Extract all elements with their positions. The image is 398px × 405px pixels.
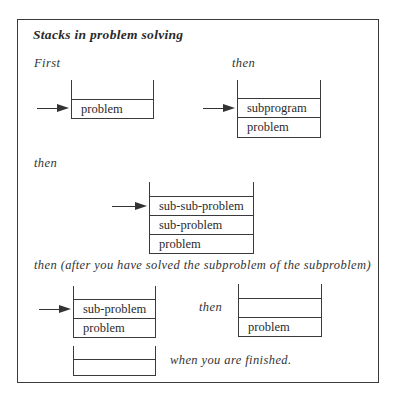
stack-3: sub-sub-problem sub-problem problem (149, 182, 254, 254)
stack-2: subprogram problem (237, 80, 321, 138)
stack-cell (239, 298, 321, 317)
stack-cell: problem (238, 117, 320, 138)
stack-4: sub-problem problem (73, 286, 156, 338)
stack-cell (74, 359, 155, 376)
stack-cell: problem (72, 99, 153, 119)
label-then-2: then (34, 156, 57, 171)
stack-cell: problem (239, 317, 321, 337)
stack-pointer-arrow-icon (37, 104, 69, 112)
stack-cell: sub-problem (150, 215, 253, 234)
stack-pointer-arrow-icon (112, 202, 147, 210)
stack-cell: subprogram (238, 98, 320, 117)
label-finished: when you are finished. (170, 353, 292, 368)
label-then-after: then (after you have solved the subprobl… (34, 258, 371, 273)
stack-pointer-arrow-icon (39, 305, 71, 313)
stack-cell: sub-problem (74, 299, 155, 318)
stack-pointer-arrow-icon (203, 104, 235, 112)
stack-5: problem (238, 284, 322, 337)
label-first: First (34, 56, 60, 71)
label-then-3: then (199, 300, 222, 315)
stack-1: problem (71, 80, 154, 119)
stack-cell: sub-sub-problem (150, 196, 253, 215)
stack-6 (73, 346, 156, 376)
stack-cell: problem (74, 318, 155, 338)
stack-cell: problem (150, 234, 253, 254)
label-then-1: then (232, 56, 255, 71)
figure-title: Stacks in problem solving (33, 27, 183, 43)
